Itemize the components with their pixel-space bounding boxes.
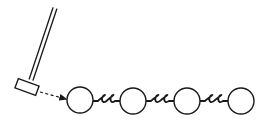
hammer-head: [15, 79, 39, 96]
mass-circle: [174, 88, 200, 114]
hammer-mass-spring-diagram: [0, 0, 273, 128]
hammer-handle-line: [33, 9, 57, 81]
dashed-arrow: [40, 92, 66, 99]
hammer-handle-line: [29, 7, 53, 79]
spring-icon: [93, 95, 120, 102]
spring-icon: [200, 95, 228, 102]
springs: [93, 95, 228, 102]
mass-circle: [228, 88, 254, 114]
mass-circle: [67, 87, 93, 113]
impact-arrow: [40, 92, 66, 99]
mass-circle: [120, 88, 146, 114]
spring-icon: [146, 95, 174, 102]
diagram-svg: [0, 0, 273, 128]
hammer-icon: [15, 7, 57, 95]
